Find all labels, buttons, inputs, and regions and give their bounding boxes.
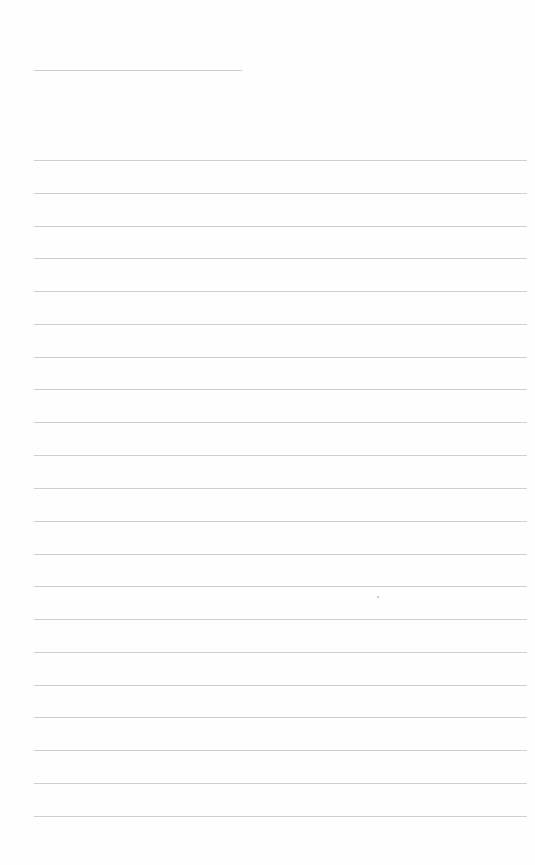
ruled-line [34, 324, 527, 325]
ruled-line [34, 554, 527, 555]
ruled-line [34, 619, 527, 620]
ruled-line [34, 652, 527, 653]
ruled-line [34, 586, 527, 587]
ruled-line [34, 160, 527, 161]
ruled-line [34, 750, 527, 751]
ruled-line [34, 717, 527, 718]
ruled-line [34, 291, 527, 292]
ruled-line [34, 488, 527, 489]
ruled-line [34, 455, 527, 456]
ruled-line [34, 521, 527, 522]
ruled-line [34, 685, 527, 686]
title-rule-line [34, 70, 242, 71]
ruled-line [34, 389, 527, 390]
ruled-line [34, 226, 527, 227]
ruled-line [34, 422, 527, 423]
ruled-line [34, 258, 527, 259]
ruled-line [34, 193, 527, 194]
lined-paper-page [0, 0, 535, 865]
ruled-line [34, 783, 527, 784]
ruled-line [34, 816, 527, 817]
ruled-line [34, 357, 527, 358]
paper-speck [377, 596, 379, 598]
